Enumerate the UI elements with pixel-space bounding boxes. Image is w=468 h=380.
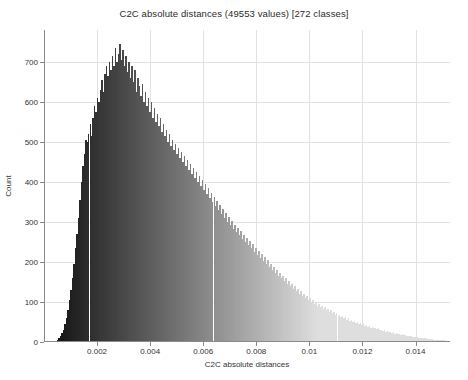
histogram-bars — [44, 30, 450, 342]
x-axis-tick — [416, 342, 417, 346]
y-axis-tick-label: 600 — [25, 98, 38, 107]
y-axis-tick — [40, 142, 44, 143]
y-axis-tick-label: 0 — [34, 338, 38, 347]
x-axis-tick-label: 0.014 — [405, 347, 425, 356]
x-axis-tick — [362, 342, 363, 346]
y-axis-tick-label: 300 — [25, 218, 38, 227]
x-axis-label: C2C absolute distances — [44, 360, 450, 369]
y-axis-tick-label: 200 — [25, 258, 38, 267]
x-axis-tick — [97, 342, 98, 346]
y-axis-tick-label: 700 — [25, 58, 38, 67]
x-axis-tick — [309, 342, 310, 346]
x-axis-tick — [203, 342, 204, 346]
x-axis-tick-label: 0.004 — [140, 347, 160, 356]
y-axis-tick — [40, 182, 44, 183]
x-axis-line — [44, 341, 450, 342]
x-axis-tick-label: 0.008 — [246, 347, 266, 356]
y-axis-line — [44, 30, 45, 342]
x-axis-tick — [150, 342, 151, 346]
y-axis-tick-label: 500 — [25, 138, 38, 147]
x-axis-tick-label: 0.012 — [352, 347, 372, 356]
y-axis-tick — [40, 342, 44, 343]
plot-area: 0100200300400500600700 0.0020.0040.0060.… — [44, 30, 450, 342]
x-axis-tick — [256, 342, 257, 346]
y-axis-tick — [40, 262, 44, 263]
x-axis-tick-label: 0.01 — [302, 347, 318, 356]
x-axis-tick-label: 0.006 — [193, 347, 213, 356]
chart-title: C2C absolute distances (49553 values) [2… — [0, 8, 468, 19]
y-axis-label: Count — [4, 175, 13, 196]
y-axis-tick — [40, 102, 44, 103]
y-axis-tick — [40, 222, 44, 223]
histogram-chart: C2C absolute distances (49553 values) [2… — [0, 0, 468, 380]
y-axis-tick — [40, 62, 44, 63]
x-axis-tick-label: 0.002 — [87, 347, 107, 356]
y-axis-tick — [40, 302, 44, 303]
y-axis-tick-label: 400 — [25, 178, 38, 187]
y-axis-tick-label: 100 — [25, 298, 38, 307]
